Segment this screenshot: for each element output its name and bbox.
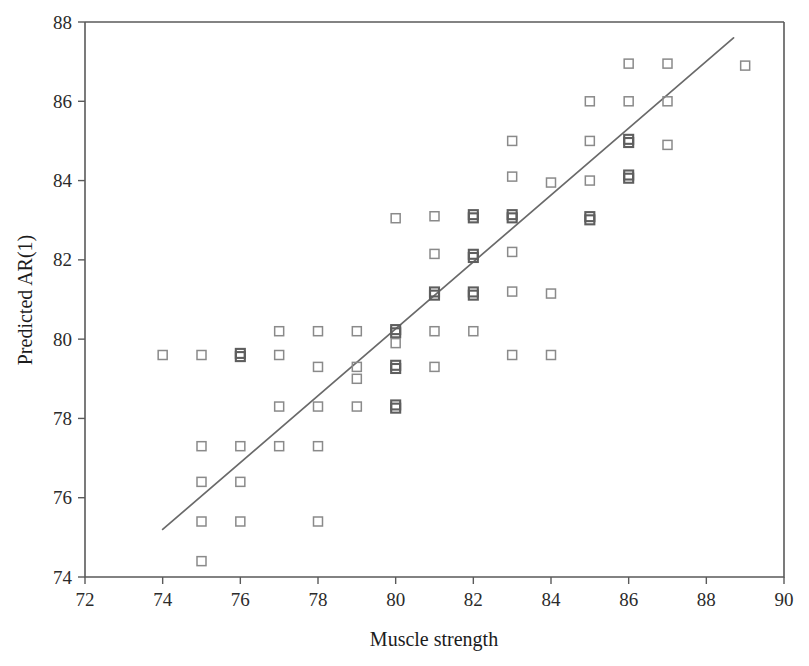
x-axis-title: Muscle strength — [370, 628, 498, 651]
data-point — [275, 351, 284, 360]
data-point — [391, 214, 400, 223]
data-point — [508, 136, 517, 145]
y-tick-label: 76 — [53, 487, 72, 508]
data-point — [314, 442, 323, 451]
data-point — [391, 361, 400, 370]
data-point — [391, 364, 400, 373]
data-point — [236, 352, 245, 361]
x-tick-label: 78 — [309, 589, 328, 610]
y-tick-label: 78 — [53, 408, 72, 429]
x-tick-label: 90 — [775, 589, 794, 610]
data-point-markers — [158, 59, 750, 566]
plot-axes — [78, 22, 784, 584]
data-point — [158, 351, 167, 360]
data-point — [197, 477, 206, 486]
data-point — [624, 171, 633, 180]
data-point — [663, 59, 672, 68]
data-point — [508, 247, 517, 256]
data-point — [197, 442, 206, 451]
data-point — [508, 213, 517, 222]
x-tick-label: 76 — [231, 589, 250, 610]
data-point — [275, 402, 284, 411]
data-point — [430, 362, 439, 371]
data-point — [352, 327, 361, 336]
y-tick-label: 84 — [53, 170, 73, 191]
data-point — [236, 517, 245, 526]
y-tick-label: 88 — [53, 12, 72, 33]
data-point — [508, 287, 517, 296]
data-point — [314, 327, 323, 336]
data-point — [469, 253, 478, 262]
data-point — [430, 327, 439, 336]
x-tick-label: 82 — [464, 589, 483, 610]
data-point — [469, 287, 478, 296]
data-point — [663, 140, 672, 149]
data-point — [469, 210, 478, 219]
regression-line — [163, 38, 734, 530]
data-point — [585, 136, 594, 145]
y-tick-label: 80 — [53, 329, 72, 350]
data-point — [508, 210, 517, 219]
y-axis-title: Predicted AR(1) — [14, 235, 37, 366]
data-point — [391, 400, 400, 409]
plot-canvas: 747678808284868872747678808284868890 Mus… — [0, 0, 809, 666]
data-point — [469, 250, 478, 259]
data-point — [624, 59, 633, 68]
data-point — [624, 135, 633, 144]
data-point — [352, 362, 361, 371]
data-point — [547, 351, 556, 360]
data-point — [508, 351, 517, 360]
data-point — [585, 215, 594, 224]
data-point — [469, 327, 478, 336]
x-tick-label: 84 — [542, 589, 562, 610]
data-point — [430, 212, 439, 221]
y-tick-label: 82 — [53, 249, 72, 270]
data-point — [352, 374, 361, 383]
data-point — [197, 351, 206, 360]
data-point — [352, 402, 361, 411]
x-tick-label: 74 — [153, 589, 173, 610]
data-point — [314, 362, 323, 371]
data-point — [741, 61, 750, 70]
data-point — [314, 517, 323, 526]
data-point — [236, 477, 245, 486]
data-point — [391, 339, 400, 348]
x-tick-label: 86 — [619, 589, 638, 610]
data-point — [508, 172, 517, 181]
x-tick-label: 72 — [76, 589, 95, 610]
data-point — [197, 517, 206, 526]
data-point — [275, 442, 284, 451]
y-tick-label: 86 — [53, 91, 72, 112]
axis-tick-labels: 747678808284868872747678808284868890 — [53, 12, 794, 611]
data-point — [469, 291, 478, 300]
data-point — [624, 138, 633, 147]
data-point — [430, 249, 439, 258]
data-point — [275, 327, 284, 336]
data-point — [624, 174, 633, 183]
data-point — [585, 97, 594, 106]
x-tick-label: 80 — [386, 589, 405, 610]
data-point — [236, 349, 245, 358]
data-point — [391, 404, 400, 413]
x-tick-label: 88 — [697, 589, 716, 610]
data-point — [547, 289, 556, 298]
data-point — [624, 97, 633, 106]
data-point — [469, 213, 478, 222]
data-point — [585, 176, 594, 185]
y-tick-label: 74 — [53, 567, 73, 588]
data-point — [197, 557, 206, 566]
data-point — [314, 402, 323, 411]
data-point — [547, 178, 556, 187]
data-point — [236, 442, 245, 451]
data-point — [585, 212, 594, 221]
scatter-plot-figure: 747678808284868872747678808284868890 Mus… — [0, 0, 809, 666]
